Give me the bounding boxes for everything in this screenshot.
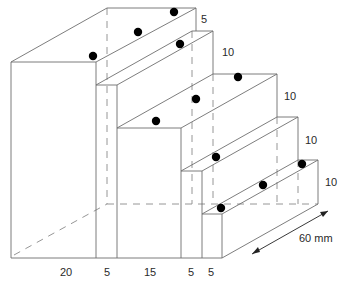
dot: [212, 153, 220, 161]
dot: [192, 95, 200, 103]
dot: [234, 73, 242, 81]
dimension-labels: 5 10 10 10 10 20 5 15 5 5 60 mm: [60, 13, 337, 278]
dot: [259, 181, 267, 189]
width-label-1: 5: [104, 266, 110, 278]
height-label-step1: 10: [222, 46, 234, 58]
dot: [217, 204, 225, 212]
dot: [170, 8, 178, 16]
height-label-step2: 10: [284, 90, 296, 102]
dots: [89, 8, 306, 212]
dot: [89, 52, 97, 60]
width-label-3: 5: [188, 266, 194, 278]
height-label-step4: 10: [325, 176, 337, 188]
height-label-step3: 10: [305, 134, 317, 146]
stepped-block-diagram: 5 10 10 10 10 20 5 15 5 5 60 mm: [0, 0, 347, 286]
dot: [176, 40, 184, 48]
visible-edges: [11, 8, 318, 258]
height-label-step0: 5: [201, 13, 207, 25]
depth-label: 60 mm: [299, 232, 333, 244]
width-label-2: 15: [144, 266, 156, 278]
width-label-4: 5: [208, 266, 214, 278]
dot: [298, 160, 306, 168]
dot: [152, 117, 160, 125]
dot: [134, 28, 142, 36]
width-label-0: 20: [60, 266, 72, 278]
diagram-stage: 5 10 10 10 10 20 5 15 5 5 60 mm: [0, 0, 347, 286]
